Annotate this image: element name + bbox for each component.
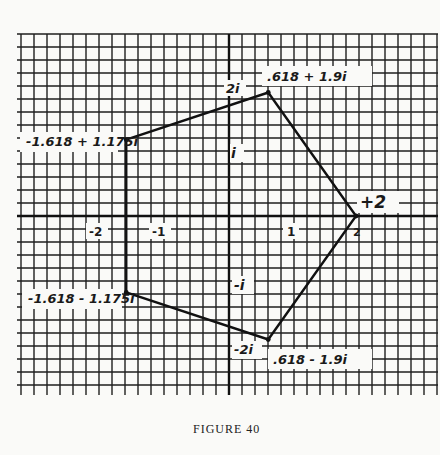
vertex-label-bottom-left: -1.618 - 1.175i <box>28 291 135 306</box>
figure-caption: FIGURE 40 <box>193 422 260 436</box>
x-tick-1: 1 <box>287 225 295 239</box>
x-tick-minus-1: -1 <box>152 225 165 239</box>
y-tick-2i: 2i <box>226 81 240 96</box>
x-tick-minus-2: -2 <box>89 225 102 239</box>
vertex-label-top-right: .618 + 1.9i <box>267 69 347 84</box>
y-tick-minus-i: -i <box>234 277 245 293</box>
vertex-dot <box>266 90 271 95</box>
vertex-label-plus-2: +2 <box>360 192 386 212</box>
y-tick-minus-2i: -2i <box>234 342 253 357</box>
vertex-label-bottom-right: .618 - 1.9i <box>273 352 348 367</box>
vertex-dot <box>266 337 271 342</box>
x-tick-2: 2 <box>353 226 361 239</box>
complex-plane-figure: -2 -1 1 2 2i i -i -2i +2 .618 + 1.9i -1.… <box>0 0 440 455</box>
vertex-label-top-left: -1.618 + 1.175i <box>26 134 139 149</box>
vertex-dot <box>354 214 359 219</box>
y-tick-i: i <box>231 145 236 161</box>
